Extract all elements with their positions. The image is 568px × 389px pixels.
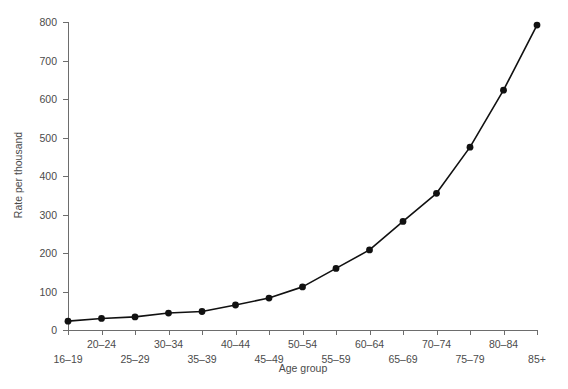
y-tick-label: 500	[39, 132, 57, 144]
y-tick-label: 0	[51, 324, 57, 336]
line-chart: 0100200300400500600700800 16–1920–2425–2…	[0, 0, 568, 389]
data-point	[232, 302, 239, 309]
x-axis: 16–1920–2425–2930–3435–3940–4445–4950–54…	[53, 330, 546, 365]
x-tick-label: 80–84	[489, 338, 518, 350]
data-point	[366, 247, 373, 254]
y-tick-label: 300	[39, 209, 57, 221]
x-tick-label: 20–24	[87, 338, 116, 350]
x-tick-label: 40–44	[221, 338, 250, 350]
data-point	[467, 144, 474, 151]
data-point	[400, 218, 407, 225]
y-axis: 0100200300400500600700800	[39, 16, 68, 336]
y-tick-label: 800	[39, 16, 57, 28]
y-axis-tick-labels: 0100200300400500600700800	[39, 16, 57, 336]
data-point	[132, 314, 139, 321]
data-point	[500, 87, 507, 94]
x-axis-title: Age group	[279, 362, 328, 374]
chart-container: 0100200300400500600700800 16–1920–2425–2…	[0, 0, 568, 389]
x-tick-label: 60–64	[355, 338, 384, 350]
y-tick-label: 400	[39, 170, 57, 182]
x-tick-label: 70–74	[422, 338, 451, 350]
x-tick-label: 50–54	[288, 338, 317, 350]
y-tick-label: 100	[39, 286, 57, 298]
x-tick-label: 30–34	[154, 338, 183, 350]
data-point	[433, 190, 440, 197]
data-point	[165, 310, 172, 317]
series-markers	[65, 22, 541, 325]
x-axis-tick-labels: 16–1920–2425–2930–3435–3940–4445–4950–54…	[53, 338, 546, 365]
data-point	[333, 265, 340, 272]
data-series	[65, 22, 541, 325]
x-tick-label: 16–19	[53, 353, 82, 365]
data-point	[199, 308, 206, 315]
x-tick-label: 85+	[528, 353, 546, 365]
x-tick-label: 25–29	[120, 353, 149, 365]
data-point	[266, 295, 273, 302]
x-tick-label: 65–69	[388, 353, 417, 365]
data-point	[65, 318, 72, 325]
data-point	[98, 315, 105, 322]
data-point	[534, 22, 541, 29]
data-point	[299, 283, 306, 290]
y-tick-label: 600	[39, 93, 57, 105]
y-tick-label: 700	[39, 55, 57, 67]
series-line-path	[68, 25, 537, 321]
y-tick-label: 200	[39, 247, 57, 259]
y-axis-ticks	[63, 23, 68, 331]
x-tick-label: 35–39	[187, 353, 216, 365]
x-tick-label: 75–79	[455, 353, 484, 365]
y-axis-title: Rate per thousand	[12, 132, 24, 219]
